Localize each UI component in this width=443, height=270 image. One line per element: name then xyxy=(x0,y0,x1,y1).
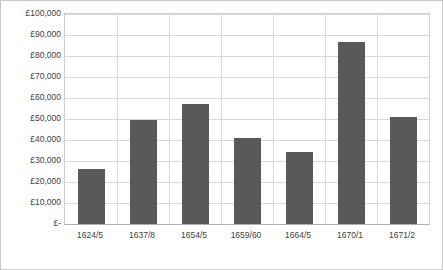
gridline xyxy=(65,98,429,99)
plot-area xyxy=(64,13,430,225)
y-tick-label: £80,000 xyxy=(3,51,61,60)
bar-chart: £-£10,000£20,000£30,000£40,000£50,000£60… xyxy=(0,0,443,270)
y-tick-label: £100,000 xyxy=(3,9,61,18)
x-tick-label: 1659/60 xyxy=(220,229,272,241)
x-tick-label: 1664/5 xyxy=(272,229,324,241)
y-tick-label: £10,000 xyxy=(3,198,61,207)
y-tick-label: £50,000 xyxy=(3,114,61,123)
y-tick-label: £30,000 xyxy=(3,156,61,165)
y-tick-label: £40,000 xyxy=(3,135,61,144)
y-tick-label: £60,000 xyxy=(3,93,61,102)
bar xyxy=(390,117,417,224)
x-tick-label: 1624/5 xyxy=(64,229,116,241)
category-separator xyxy=(325,14,326,224)
y-tick-label: £90,000 xyxy=(3,30,61,39)
category-separator xyxy=(117,14,118,224)
x-axis-tick-labels: 1624/51637/81654/51659/601664/51670/1167… xyxy=(64,229,430,249)
bar xyxy=(286,152,313,224)
y-tick-label: £70,000 xyxy=(3,72,61,81)
x-tick-label: 1671/2 xyxy=(376,229,428,241)
y-tick-label: £20,000 xyxy=(3,177,61,186)
gridline xyxy=(65,14,429,15)
bar xyxy=(338,42,365,224)
gridline xyxy=(65,119,429,120)
category-separator xyxy=(169,14,170,224)
x-tick-label: 1670/1 xyxy=(324,229,376,241)
gridline xyxy=(65,77,429,78)
bar xyxy=(130,120,157,224)
bar xyxy=(78,169,105,224)
y-axis-tick-labels: £-£10,000£20,000£30,000£40,000£50,000£60… xyxy=(1,13,61,225)
category-separator xyxy=(273,14,274,224)
category-separator xyxy=(221,14,222,224)
y-tick-label: £- xyxy=(3,219,61,228)
gridline xyxy=(65,56,429,57)
x-tick-label: 1637/8 xyxy=(116,229,168,241)
x-tick-label: 1654/5 xyxy=(168,229,220,241)
bar xyxy=(234,138,261,224)
gridline xyxy=(65,35,429,36)
bar xyxy=(182,104,209,224)
category-separator xyxy=(377,14,378,224)
